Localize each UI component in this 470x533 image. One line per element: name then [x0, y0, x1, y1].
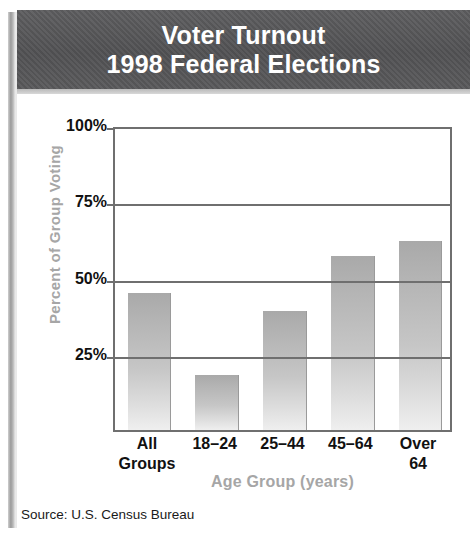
- y-axis-tick-labels: 25%50%75%100%: [17, 127, 107, 432]
- title-banner: Voter Turnout 1998 Federal Elections: [17, 10, 470, 89]
- y-tick-50: [107, 281, 115, 283]
- chart-figure: Voter Turnout 1998 Federal Elections Per…: [0, 0, 470, 533]
- title-line-1: Voter Turnout: [161, 22, 325, 48]
- x-axis-title: Age Group (years): [113, 473, 452, 491]
- plot-area: [113, 127, 452, 432]
- x-tick-label-4: Over 64: [384, 434, 452, 474]
- title-banner-underline: [17, 89, 470, 94]
- y-tick-label-25: 25%: [75, 346, 107, 364]
- y-tick-label-50: 50%: [75, 270, 107, 288]
- title-line-2: 1998 Federal Elections: [107, 51, 381, 77]
- y-tick-label-75: 75%: [75, 193, 107, 211]
- y-tick-label-100: 100%: [66, 117, 107, 135]
- gridline-75: [115, 204, 450, 206]
- x-tick-label-3: 45–64: [316, 434, 384, 454]
- y-tick-75: [107, 204, 115, 206]
- gridline-25: [115, 357, 450, 359]
- x-tick-label-0: All Groups: [113, 434, 181, 474]
- bar-0: [128, 293, 172, 430]
- y-tick-100: [107, 128, 115, 130]
- bar-4: [399, 241, 443, 430]
- bar-1: [195, 375, 239, 430]
- gridline-50: [115, 281, 450, 283]
- x-tick-label-1: 18–24: [181, 434, 249, 454]
- left-border-rail: [8, 12, 15, 528]
- chart-plot-region: Percent of Group Voting 25%50%75%100% Al…: [17, 96, 470, 496]
- source-note: Source: U.S. Census Bureau: [21, 507, 194, 522]
- y-tick-25: [107, 357, 115, 359]
- bar-2: [263, 311, 307, 430]
- x-tick-label-2: 25–44: [249, 434, 317, 454]
- bars-layer: [115, 129, 450, 430]
